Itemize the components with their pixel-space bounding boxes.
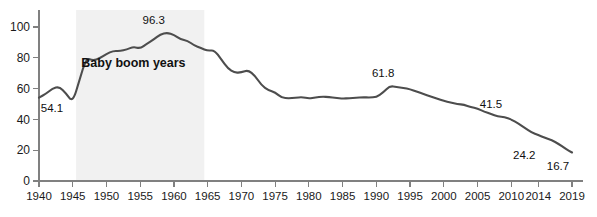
y-tick-label: 20 [17,143,31,157]
point-label-24-2: 24.2 [513,149,535,161]
y-tick-label: 60 [17,82,31,96]
x-tick-label: 1995 [397,190,423,202]
baby-boom-band-group [76,10,204,181]
x-tick-label: 1940 [26,190,52,202]
x-tick-label: 1960 [161,190,187,202]
x-tick-label: 1985 [330,190,356,202]
x-tick-label: 1990 [364,190,390,202]
y-tick-label: 40 [17,113,31,127]
baby-boom-years-label: Baby boom years [81,56,185,70]
birth-rate-line-chart: 020406080100 194019451950195519601965197… [0,0,597,217]
x-tick-label: 2019 [559,190,585,202]
point-label-41-5: 41.5 [480,98,502,110]
y-tick-label: 80 [17,51,31,65]
point-label-61-8: 61.8 [372,67,394,79]
x-tick-label: 2014 [525,190,551,202]
x-tick-label: 2005 [465,190,491,202]
x-tick-label: 1965 [195,190,221,202]
y-tick-label: 0 [23,174,30,188]
x-axis-ticks: 1940194519501955196019651970197519801985… [26,181,585,202]
y-tick-label: 100 [10,20,30,34]
point-label-96-3: 96.3 [143,14,165,26]
x-tick-label: 1950 [94,190,120,202]
x-tick-label: 1970 [229,190,255,202]
point-label-54-1: 54.1 [41,102,63,114]
x-tick-label: 2000 [431,190,457,202]
y-axis-ticks: 020406080100 [10,20,39,188]
point-label-16-7: 16.7 [547,160,569,172]
chart-canvas: 020406080100 194019451950195519601965197… [0,0,597,217]
x-tick-label: 1955 [127,190,153,202]
x-tick-label: 1980 [296,190,322,202]
x-tick-label: 1975 [262,190,288,202]
x-tick-label: 2010 [498,190,524,202]
x-tick-label: 1945 [60,190,86,202]
baby-boom-shaded-band [76,10,204,181]
